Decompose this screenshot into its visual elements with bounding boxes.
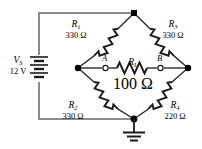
circuit-diagram: VS 12 V R1 330 Ω R3 330 Ω RL 100 Ω R2 33… (0, 0, 202, 149)
source-symbol: VS (4, 50, 32, 67)
r4-symbol: R4 (152, 95, 198, 112)
r1-symbol: R1 (53, 14, 99, 31)
terminal-a-label: A (102, 53, 107, 63)
r3-value: 330 Ω (150, 31, 196, 40)
terminal-a (103, 65, 108, 70)
terminal-b-label: B (157, 53, 162, 63)
resistor-r3-label: R3 330 Ω (150, 14, 196, 40)
resistor-rl-symbol-label: RL (112, 52, 154, 69)
ground-symbol (123, 119, 145, 141)
node-left (75, 65, 81, 71)
resistor-r1-label: R1 330 Ω (53, 14, 99, 40)
resistor-r2-label: R2 330 Ω (50, 95, 96, 121)
r2-value: 330 Ω (50, 112, 96, 121)
battery-symbol (30, 57, 48, 77)
node-top (131, 10, 137, 16)
r2-symbol: R2 (50, 95, 96, 112)
r1-value: 330 Ω (53, 31, 99, 40)
resistor-r4-label: R4 220 Ω (152, 95, 198, 121)
r4-value: 220 Ω (152, 112, 198, 121)
node-right (185, 65, 191, 71)
terminal-b (158, 65, 163, 70)
source-value: 12 V (4, 67, 32, 76)
source-label: VS 12 V (4, 50, 32, 76)
rl-subscript: L (134, 61, 138, 68)
r3-symbol: R3 (150, 14, 196, 31)
resistor-rl-value-label: 100 Ω (110, 76, 156, 93)
